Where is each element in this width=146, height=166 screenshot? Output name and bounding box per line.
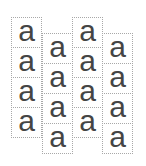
cell-letter: a xyxy=(79,76,96,106)
cell-letter: a xyxy=(79,46,96,76)
grid-cell: a xyxy=(42,123,73,154)
cell-letter: a xyxy=(18,106,35,136)
cell-letter: a xyxy=(18,46,35,76)
letter-grid: a a a a a a a a a a a a a a a a xyxy=(11,17,132,157)
cell-letter: a xyxy=(49,32,66,62)
cell-letter: a xyxy=(79,16,96,46)
column-1: a a a a xyxy=(11,17,41,138)
column-3: a a a a xyxy=(72,17,102,138)
cell-letter: a xyxy=(18,16,35,46)
cell-letter: a xyxy=(49,62,66,92)
cell-letter: a xyxy=(109,32,126,62)
cell-letter: a xyxy=(79,106,96,136)
grid-cell: a xyxy=(11,107,42,138)
cell-letter: a xyxy=(109,62,126,92)
cell-letter: a xyxy=(109,92,126,122)
cell-letter: a xyxy=(49,92,66,122)
cell-letter: a xyxy=(49,122,66,152)
grid-cell: a xyxy=(72,107,103,138)
column-2: a a a a xyxy=(42,33,72,154)
grid-cell: a xyxy=(102,123,133,154)
cell-letter: a xyxy=(109,122,126,152)
cell-letter: a xyxy=(18,76,35,106)
column-4: a a a a xyxy=(102,33,132,154)
